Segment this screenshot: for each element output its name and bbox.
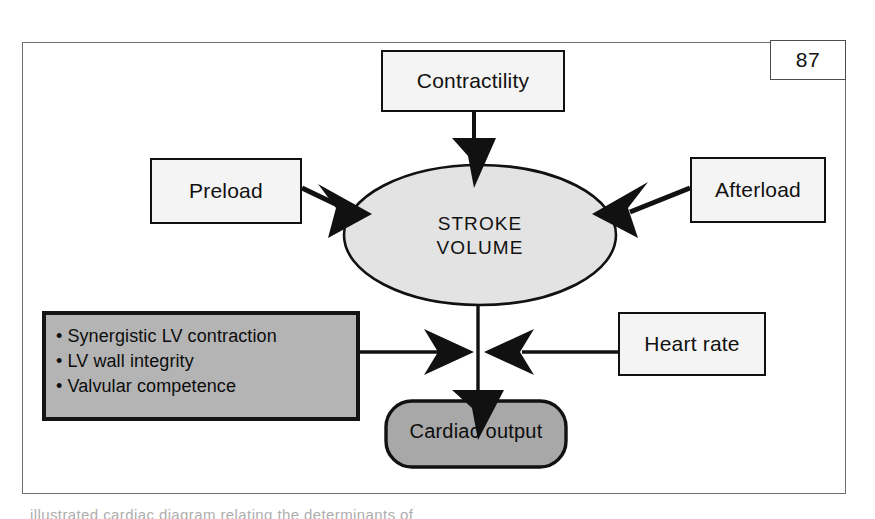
node-stroke-volume-label: STROKE VOLUME — [380, 212, 580, 261]
stroke-volume-line-1: STROKE — [380, 212, 580, 236]
list-item: •Synergistic LV contraction — [56, 324, 356, 349]
stroke-volume-line-2: VOLUME — [380, 236, 580, 260]
bullet-icon: • — [56, 326, 62, 346]
figure-page: 87 Contractility Preload Afterload Heart… — [0, 0, 875, 519]
bullet-icon: • — [56, 376, 62, 396]
page-number-box: 87 — [770, 40, 846, 80]
list-item: •Valvular competence — [56, 374, 356, 399]
node-determinant-factors[interactable]: •Synergistic LV contraction •LV wall int… — [42, 311, 360, 421]
page-number: 87 — [796, 48, 820, 72]
node-contractility[interactable]: Contractility — [381, 50, 565, 112]
node-afterload[interactable]: Afterload — [690, 157, 826, 223]
node-afterload-label: Afterload — [715, 178, 801, 202]
bullet-icon: • — [56, 351, 62, 371]
node-heart-rate[interactable]: Heart rate — [618, 312, 766, 376]
node-heart-rate-label: Heart rate — [644, 332, 739, 356]
figure-caption-cutoff: illustrated cardiac diagram relating the… — [30, 506, 830, 519]
node-contractility-label: Contractility — [417, 69, 529, 93]
list-item: •LV wall integrity — [56, 349, 356, 374]
factor-label-3: Valvular competence — [67, 376, 236, 396]
node-preload[interactable]: Preload — [150, 158, 302, 224]
factor-label-2: LV wall integrity — [67, 351, 193, 371]
node-cardiac-output-label: Cardiac output — [388, 420, 564, 443]
node-preload-label: Preload — [189, 179, 263, 203]
factor-label-1: Synergistic LV contraction — [67, 326, 276, 346]
